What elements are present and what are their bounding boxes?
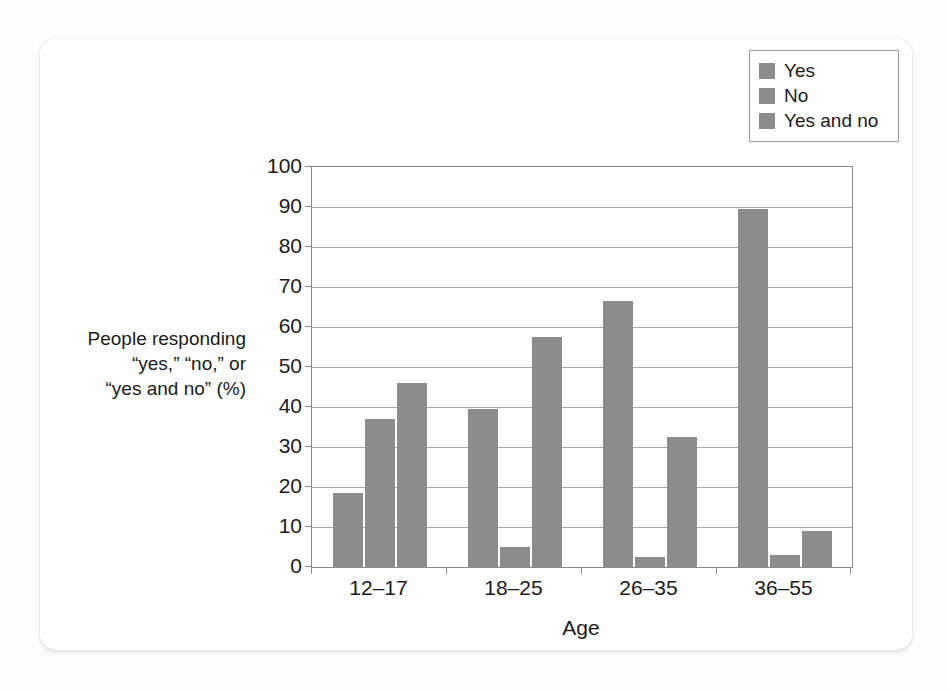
y-axis-title-line-1: People responding xyxy=(68,326,246,351)
x-axis-tick-label: 18–25 xyxy=(446,576,581,600)
bar xyxy=(770,555,800,567)
y-axis-tick-label: 100 xyxy=(262,155,302,176)
figure-card: Yes No Yes and no People responding “yes… xyxy=(40,38,912,650)
x-axis-title: Age xyxy=(311,616,851,640)
x-axis-tick-mark xyxy=(311,567,312,574)
x-axis-tick-labels: 12–1718–2526–3536–55 xyxy=(311,576,851,600)
x-axis-tick-mark xyxy=(850,567,851,574)
bar xyxy=(468,409,498,567)
y-axis-title: People responding “yes,” “no,” or “yes a… xyxy=(68,326,246,401)
bars-layer xyxy=(312,167,852,567)
legend-item-yes: Yes xyxy=(759,58,888,83)
bar xyxy=(397,383,427,567)
y-axis-tick-label: 10 xyxy=(262,515,302,536)
bar-group xyxy=(717,167,852,567)
bar xyxy=(635,557,665,567)
bar-group xyxy=(447,167,582,567)
x-axis-tick-mark xyxy=(446,567,447,574)
legend-label-yes: Yes xyxy=(784,61,815,80)
legend-label-yes-and-no: Yes and no xyxy=(784,111,878,130)
y-axis-title-line-3: “yes and no” (%) xyxy=(68,376,246,401)
bar xyxy=(365,419,395,567)
x-axis-tick-mark xyxy=(716,567,717,574)
bar-chart-figure: Yes No Yes and no People responding “yes… xyxy=(40,38,912,650)
bar-group xyxy=(582,167,717,567)
plot-area xyxy=(311,166,853,568)
y-axis-tick-label: 70 xyxy=(262,275,302,296)
chart-legend: Yes No Yes and no xyxy=(749,50,899,142)
x-axis-tick-marks xyxy=(311,567,851,574)
legend-swatch-icon-yes xyxy=(759,63,775,79)
y-axis-tick-label: 0 xyxy=(262,555,302,576)
y-axis-tick-labels: 0102030405060708090100 xyxy=(250,166,302,566)
bar xyxy=(802,531,832,567)
x-axis-tick-mark xyxy=(581,567,582,574)
bar xyxy=(603,301,633,567)
y-axis-tick-label: 80 xyxy=(262,235,302,256)
bar xyxy=(333,493,363,567)
y-axis-tick-label: 50 xyxy=(262,355,302,376)
y-axis-tick-label: 20 xyxy=(262,475,302,496)
page-background: Yes No Yes and no People responding “yes… xyxy=(0,0,949,691)
bar xyxy=(738,209,768,567)
bar xyxy=(500,547,530,567)
y-axis-tick-label: 90 xyxy=(262,195,302,216)
x-axis-tick-label: 12–17 xyxy=(311,576,446,600)
x-axis-tick-label: 36–55 xyxy=(716,576,851,600)
x-axis-tick-label: 26–35 xyxy=(581,576,716,600)
y-axis-tick-label: 40 xyxy=(262,395,302,416)
legend-label-no: No xyxy=(784,86,808,105)
y-axis-title-line-2: “yes,” “no,” or xyxy=(68,351,246,376)
legend-item-yes-and-no: Yes and no xyxy=(759,108,888,133)
legend-swatch-icon-no xyxy=(759,88,775,104)
bar-group xyxy=(312,167,447,567)
y-axis-tick-label: 30 xyxy=(262,435,302,456)
legend-item-no: No xyxy=(759,83,888,108)
bar xyxy=(532,337,562,567)
bar xyxy=(667,437,697,567)
y-axis-tick-label: 60 xyxy=(262,315,302,336)
legend-swatch-icon-yes-and-no xyxy=(759,113,775,129)
